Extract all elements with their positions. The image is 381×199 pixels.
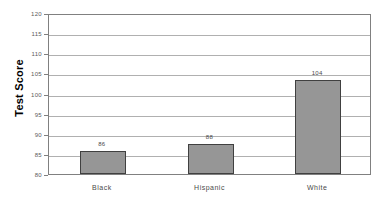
y-axis-title-text: Test Score: [13, 59, 25, 116]
x-category-label: White: [307, 184, 327, 191]
bar-white[interactable]: [295, 80, 341, 174]
y-axis-title: Test Score: [8, 0, 30, 175]
bars-layer: [49, 15, 370, 174]
plot-area: [48, 14, 371, 175]
x-category-label: Black: [92, 184, 112, 191]
x-category-label: Hispanic: [194, 184, 225, 191]
bar-chart: Test Score 12011511010510095908580 86881…: [0, 0, 381, 199]
bar-black[interactable]: [80, 151, 126, 174]
y-tick-mark: [44, 175, 48, 176]
bar-hispanic[interactable]: [188, 144, 234, 174]
